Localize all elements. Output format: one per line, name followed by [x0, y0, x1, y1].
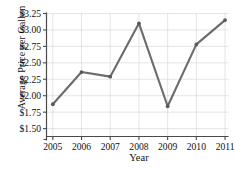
x-tick-label: 2008 [129, 141, 148, 152]
x-tick-label: 2009 [158, 141, 177, 152]
y-tick-label: $2.00 [19, 90, 41, 101]
y-tick-label: $1.75 [19, 107, 41, 118]
data-point [108, 75, 112, 79]
plot-area: $1.50$1.75$2.00$2.25$2.50$2.75$3.00$3.25… [0, 0, 235, 169]
data-point [137, 21, 141, 25]
x-tick-label: 2011 [216, 141, 235, 152]
data-point [166, 104, 170, 108]
data-point [51, 102, 55, 106]
tick-labels: $1.50$1.75$2.00$2.25$2.50$2.75$3.00$3.25… [19, 8, 234, 152]
y-tick-label: $1.50 [19, 123, 41, 134]
y-tick-label: $3.00 [19, 24, 41, 35]
axes [43, 13, 229, 141]
x-tick-label: 2006 [72, 141, 91, 152]
y-tick-label: $2.75 [19, 41, 41, 52]
y-tick-label: $2.50 [19, 57, 41, 68]
x-tick-label: 2010 [187, 141, 206, 152]
gridlines [47, 14, 229, 137]
data-point [80, 70, 84, 74]
x-tick-label: 2005 [43, 141, 62, 152]
line-chart: Average Price per Gallon Year $1.50$1.75… [0, 0, 235, 169]
x-tick-label: 2007 [101, 141, 120, 152]
y-tick-label: $2.25 [19, 74, 41, 85]
data-point [223, 18, 227, 22]
data-point [194, 43, 198, 47]
y-tick-label: $3.25 [19, 8, 41, 19]
